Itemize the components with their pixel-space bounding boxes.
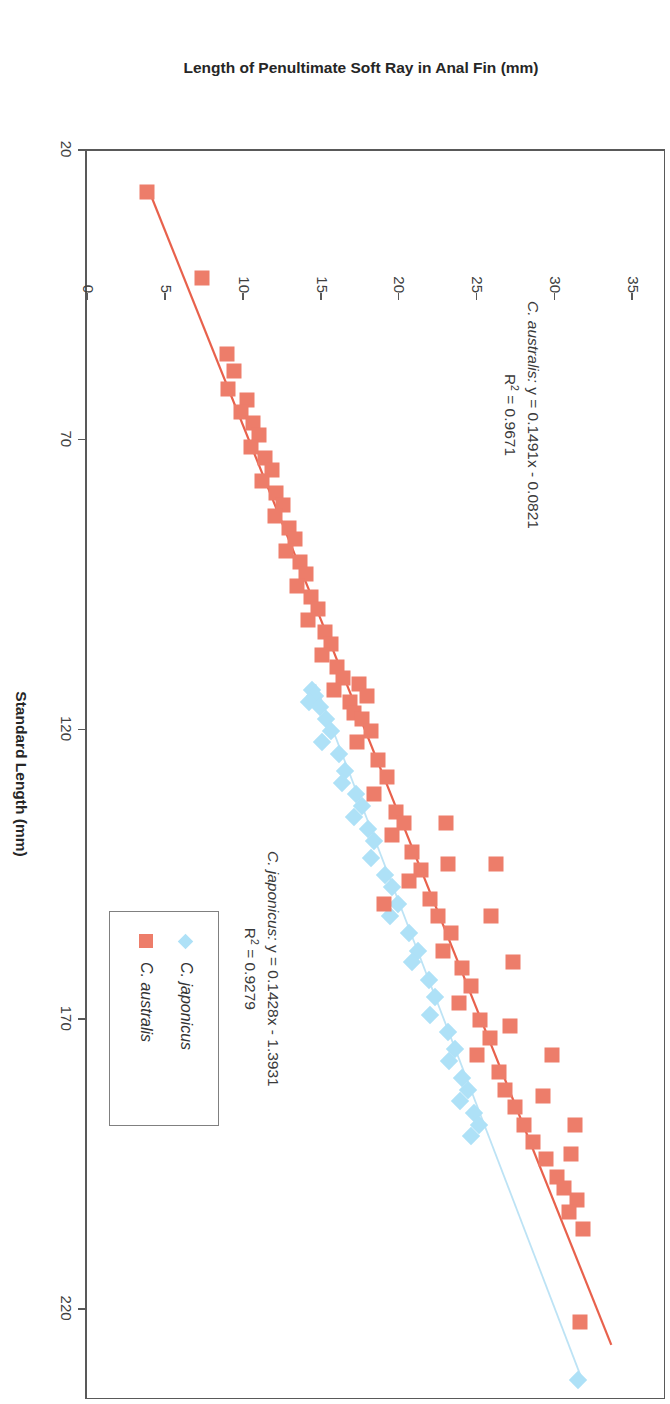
- legend-label-australis: C. australis: [137, 962, 155, 1042]
- data-point-australis: [359, 688, 374, 703]
- x-tick-label: 220: [58, 1296, 75, 1321]
- data-point-australis: [244, 439, 259, 454]
- data-point-australis: [435, 943, 450, 958]
- data-point-australis: [470, 1048, 485, 1063]
- annotation-species: C. australis:: [525, 301, 542, 383]
- annotation-r2: R2 = 0.9671: [498, 301, 522, 529]
- data-point-australis: [140, 184, 155, 199]
- x-tick-mark: [78, 1018, 85, 1020]
- plot-area: 05101520253035 C. australis: y = 0.1491x…: [85, 149, 665, 1399]
- data-point-australis: [507, 1100, 522, 1115]
- square-marker-icon: [139, 928, 153, 954]
- x-tick-label: 70: [58, 430, 75, 447]
- data-point-australis: [482, 1030, 497, 1045]
- data-point-australis: [367, 787, 382, 802]
- data-point-australis: [404, 845, 419, 860]
- data-point-australis: [506, 955, 521, 970]
- x-tick-mark: [78, 1308, 85, 1310]
- annotation-australis: C. australis: y = 0.1491x - 0.0821R2 = 0…: [498, 301, 544, 529]
- annotation-japonicus: C. japonicus: y = 0.1428x - 1.3931R2 = 0…: [238, 851, 284, 1087]
- data-point-australis: [454, 961, 469, 976]
- data-point-australis: [544, 1048, 559, 1063]
- data-point-australis: [440, 856, 455, 871]
- data-point-australis: [562, 1204, 577, 1219]
- data-point-australis: [194, 271, 209, 286]
- data-point-australis: [491, 1065, 506, 1080]
- data-point-australis: [473, 1013, 488, 1028]
- data-point-australis: [370, 752, 385, 767]
- legend: C. japonicus C. australis: [109, 911, 219, 1126]
- legend-item-australis: C. australis: [126, 928, 166, 1125]
- data-point-australis: [255, 474, 270, 489]
- chart-canvas: Callanthias Length of Penultimate Soft R…: [0, 0, 670, 1404]
- annotation-species: C. japonicus:: [265, 851, 282, 941]
- legend-item-japonicus: C. japonicus: [166, 928, 206, 1125]
- data-point-australis: [267, 509, 282, 524]
- data-point-australis: [516, 1117, 531, 1132]
- data-point-australis: [221, 381, 236, 396]
- legend-label-japonicus: C. japonicus: [177, 962, 195, 1050]
- x-tick-mark: [78, 149, 85, 151]
- x-tick-label: 120: [58, 716, 75, 741]
- x-tick-label: 170: [58, 1006, 75, 1031]
- data-point-australis: [502, 1019, 517, 1034]
- data-point-australis: [219, 346, 234, 361]
- data-point-australis: [498, 1082, 513, 1097]
- data-point-australis: [326, 682, 341, 697]
- data-point-australis: [278, 543, 293, 558]
- x-axis-label: Standard Length (mm): [12, 149, 30, 1399]
- x-tick-label: 20: [58, 141, 75, 158]
- data-point-australis: [526, 1135, 541, 1150]
- diamond-marker-icon: [181, 928, 192, 954]
- data-point-australis: [563, 1146, 578, 1161]
- data-point-australis: [443, 926, 458, 941]
- data-point-australis: [568, 1117, 583, 1132]
- x-tick-mark: [78, 729, 85, 731]
- data-point-australis: [538, 1152, 553, 1167]
- annotation-r2: R2 = 0.9279: [238, 851, 262, 1087]
- data-point-australis: [576, 1221, 591, 1236]
- data-point-australis: [379, 769, 394, 784]
- data-point-australis: [300, 613, 315, 628]
- annotation-equation: y = 0.1491x - 0.0821: [525, 383, 542, 529]
- y-axis-label: Length of Penultimate Soft Ray in Anal F…: [81, 59, 641, 77]
- annotation-equation: y = 0.1428x - 1.3931: [265, 941, 282, 1087]
- data-point-australis: [227, 364, 242, 379]
- rotated-figure-wrapper: Callanthias Length of Penultimate Soft R…: [0, 0, 670, 1404]
- data-point-australis: [463, 978, 478, 993]
- data-point-australis: [314, 648, 329, 663]
- data-point-australis: [488, 856, 503, 871]
- data-point-australis: [451, 995, 466, 1010]
- data-point-australis: [572, 1314, 587, 1329]
- data-point-australis: [350, 735, 365, 750]
- data-point-australis: [423, 891, 438, 906]
- x-tick-mark: [78, 439, 85, 441]
- data-point-australis: [431, 908, 446, 923]
- data-point-australis: [384, 827, 399, 842]
- data-point-australis: [289, 578, 304, 593]
- data-point-australis: [376, 897, 391, 912]
- x-axis-ticks: 2070120170220: [55, 149, 85, 1399]
- data-point-australis: [364, 723, 379, 738]
- data-point-australis: [535, 1088, 550, 1103]
- plot-svg: [88, 151, 664, 1397]
- data-point-australis: [439, 816, 454, 831]
- data-point-australis: [484, 908, 499, 923]
- data-point-australis: [401, 874, 416, 889]
